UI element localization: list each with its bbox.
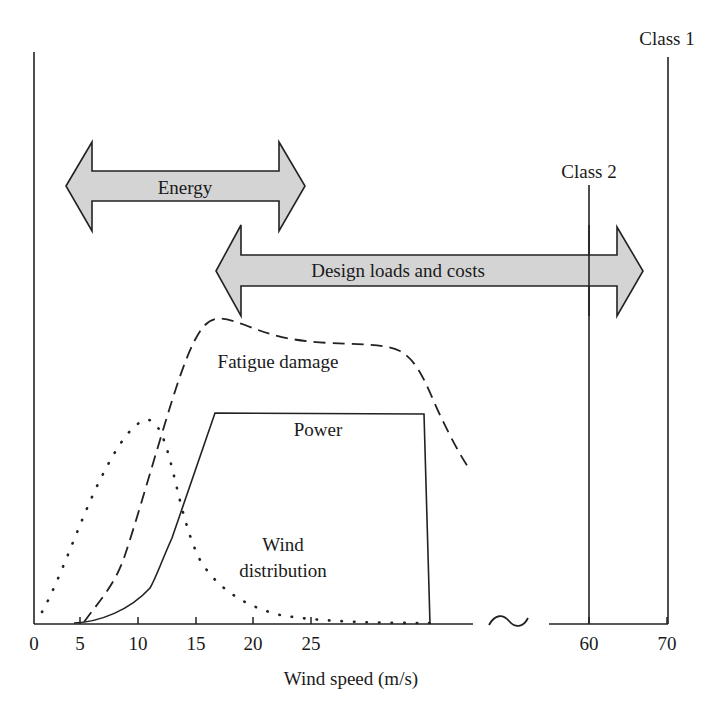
wind-turbine-design-diagram: 0 5 10 15 20 25 60 70 Wind speed (m/s) C… (0, 0, 725, 717)
energy-label: Energy (158, 177, 213, 198)
design-loads-label: Design loads and costs (311, 260, 485, 281)
x-tick-label: 0 (29, 633, 39, 654)
class-1-label: Class 1 (639, 28, 694, 49)
wind-distribution-curve (42, 420, 430, 623)
x-tick-label: 70 (658, 633, 677, 654)
wind-distribution-label-line1: Wind (262, 534, 304, 555)
class-2-label: Class 2 (561, 161, 616, 182)
x-axis-title: Wind speed (m/s) (284, 668, 418, 690)
x-tick-label: 5 (75, 633, 85, 654)
power-curve (74, 413, 430, 624)
x-ticks (80, 617, 667, 624)
axis-break-icon (489, 616, 528, 626)
x-tick-label: 10 (129, 633, 148, 654)
power-label: Power (294, 419, 343, 440)
x-tick-label: 25 (302, 633, 321, 654)
x-tick-label: 60 (580, 633, 599, 654)
wind-distribution-label-line2: distribution (239, 560, 327, 581)
x-tick-label: 20 (244, 633, 263, 654)
fatigue-damage-label: Fatigue damage (218, 351, 339, 372)
x-tick-label: 15 (187, 633, 206, 654)
